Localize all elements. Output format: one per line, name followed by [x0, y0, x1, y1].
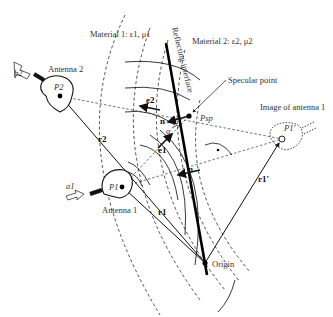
- dashed-arc-5: [196, 100, 250, 272]
- r2-label: r2: [98, 134, 107, 144]
- solid-wavefronts: [125, 61, 235, 312]
- e2-label: e2: [146, 95, 155, 105]
- e1-label: e1: [158, 145, 167, 155]
- p1-image-label: P1': [283, 123, 295, 133]
- alpha-label: α: [166, 126, 171, 136]
- antenna-1-feed: [90, 190, 102, 194]
- r2-vector: [64, 100, 205, 263]
- p1-label: P1: [108, 182, 118, 192]
- specular-pointer: [193, 80, 226, 112]
- n-lower-label: n: [188, 164, 193, 174]
- n-upper-label: n: [160, 116, 165, 126]
- dashed-arc-1: [99, 15, 160, 315]
- specular-point-label: Specular point: [228, 75, 278, 85]
- angle-dot: [217, 149, 220, 152]
- e2-vector: [140, 106, 160, 110]
- r1-image-vector: [205, 143, 279, 263]
- antenna-1: [66, 170, 132, 200]
- r1-image-label: r1': [258, 174, 269, 184]
- diagram-canvas: Material 1: ε1, μ1 Material 2: ε2, μ2 Re…: [0, 0, 333, 317]
- a1-label: a1: [66, 181, 75, 191]
- origin-dot: [202, 260, 207, 265]
- a1-arrow-icon: [66, 190, 84, 200]
- image-of-antenna-1-label: Image of antenna 1: [260, 102, 325, 112]
- antenna-2-label: Antenna 2: [48, 64, 83, 74]
- dashed-wavefronts: [99, 15, 250, 315]
- r1-label: r1: [158, 207, 167, 217]
- position-vectors: [64, 100, 279, 263]
- p-sp-label: Psp: [199, 113, 213, 123]
- p2-label: P2: [53, 82, 64, 92]
- material-1-label: Material 1: ε1, μ1: [90, 29, 151, 39]
- b2-label: b2: [14, 68, 23, 78]
- specular-point-dot: [186, 113, 191, 118]
- origin-label: Origin: [212, 259, 235, 269]
- antenna-2-feed: [34, 74, 44, 80]
- material-2-label: Material 2: ε2, μ2: [192, 36, 253, 46]
- antenna-1-label: Antenna 1: [102, 205, 137, 215]
